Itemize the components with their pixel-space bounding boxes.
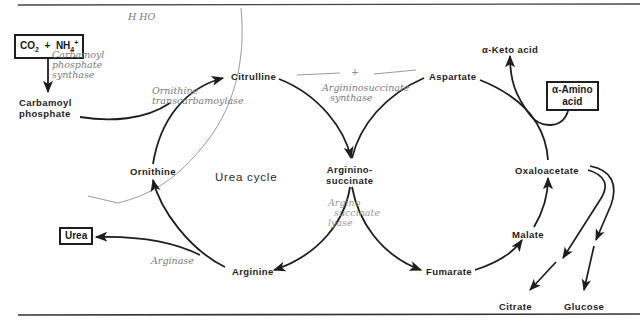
urea-box: Urea xyxy=(59,227,93,245)
arrow-to-citrate xyxy=(530,262,556,290)
arrow-malate-to-oxaloacetate xyxy=(534,178,548,227)
plus-sign: + xyxy=(44,40,50,51)
arrow-oxaloacetate-to-citrate-top xyxy=(563,170,605,258)
arrow-oxaloacetate-to-aspartate xyxy=(480,80,548,160)
note-cps-line3: synthase xyxy=(52,70,104,80)
node-argininosuccinate: Arginino- succinate xyxy=(326,164,373,186)
arrow-arginine-to-ornithine xyxy=(153,180,225,267)
arrow-fumarate-to-malate xyxy=(475,240,522,270)
argininosuccinate-line2: succinate xyxy=(326,175,373,186)
note-asl-line3: lyase xyxy=(328,218,380,228)
top-rule xyxy=(18,4,640,5)
cycle-title: Urea cycle xyxy=(215,171,277,183)
note-argininosuccinate-synthase: Argininosuccinate synthase xyxy=(322,83,409,103)
note-h-ho: H HO xyxy=(128,12,155,22)
note-carbamoyl-synthase: Carbamoyl phosphate synthase xyxy=(52,50,104,80)
carbamoyl-line2: phosphate xyxy=(19,108,72,119)
alpha-amino-acid-box: α-Amino acid xyxy=(546,81,599,111)
amino-acid-line2: acid xyxy=(552,96,593,108)
note-plus-mark: + xyxy=(351,67,359,77)
node-ornithine: Ornithine xyxy=(130,166,176,177)
node-fumarate: Fumarate xyxy=(426,266,472,277)
node-arginine: Arginine xyxy=(232,266,274,277)
node-carbamoyl-phosphate: Carbamoyl phosphate xyxy=(19,97,72,119)
node-alpha-keto-acid: α-Keto acid xyxy=(482,44,538,55)
pencil-dash-right xyxy=(374,70,416,74)
note-arginase: Arginase xyxy=(151,256,194,266)
co2-text: CO xyxy=(20,40,35,51)
arrow-to-glucose xyxy=(584,246,594,290)
co2-subscript: 2 xyxy=(35,46,39,53)
note-argininosuccinate-lyase: Argino succinate lyase xyxy=(328,198,380,228)
bottom-rule xyxy=(18,314,640,315)
carbamoyl-line1: Carbamoyl xyxy=(19,97,72,108)
node-citrate: Citrate xyxy=(499,301,532,312)
pencil-dash-left xyxy=(297,73,340,75)
node-oxaloacetate: Oxaloacetate xyxy=(515,165,579,176)
nh-superscript: + xyxy=(74,39,78,46)
node-malate: Malate xyxy=(512,229,544,240)
note-ornithine-transcarbamoylase: Ornithine transcarbamoylase xyxy=(152,86,244,106)
node-aspartate: Aspartate xyxy=(429,71,476,82)
amino-acid-line1: α-Amino xyxy=(552,84,593,96)
node-glucose: Glucose xyxy=(564,301,604,312)
note-ass-line2: synthase xyxy=(322,93,409,103)
argininosuccinate-line1: Arginino- xyxy=(326,164,373,175)
note-otc-line2: transcarbamoylase xyxy=(152,96,244,106)
arrow-arginine-to-urea xyxy=(96,237,200,255)
node-citrulline: Citrulline xyxy=(231,71,276,82)
